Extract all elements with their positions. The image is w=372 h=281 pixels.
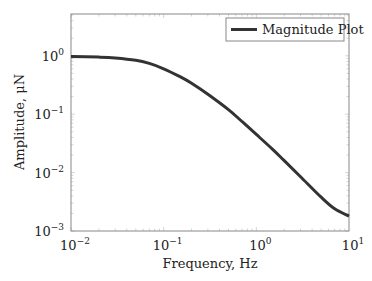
y-tick-label: 10−3: [34, 222, 64, 239]
y-tick-label: 10−1: [34, 105, 64, 122]
plot-frame: [71, 14, 349, 231]
magnitude-curve: [71, 57, 349, 217]
y-axis-label: Amplitude, μN: [12, 74, 27, 171]
x-tick-label: 10−1: [153, 236, 183, 253]
x-axis-tick-labels: 10−210−1100101: [60, 236, 364, 253]
legend: Magnitude Plot: [226, 18, 364, 41]
x-axis-label: Frequency, Hz: [162, 256, 257, 271]
x-tick-label: 101: [342, 236, 364, 253]
magnitude-chart: 10−210−1100101 10010−110−210−3 Frequency…: [0, 0, 372, 281]
x-tick-label: 100: [249, 236, 272, 253]
y-tick-label: 100: [42, 47, 65, 64]
y-axis-tick-labels: 10010−110−210−3: [34, 47, 64, 239]
y-tick-label: 10−2: [34, 164, 64, 181]
legend-label: Magnitude Plot: [262, 22, 364, 37]
minor-ticks: [71, 14, 349, 231]
x-tick-label: 10−2: [60, 236, 90, 253]
